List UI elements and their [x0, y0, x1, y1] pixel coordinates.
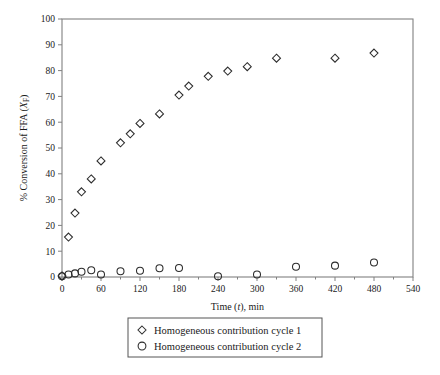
x-tick-label: 60	[96, 284, 106, 294]
x-tick-label: 0	[60, 284, 65, 294]
y-tick-label: 30	[46, 195, 56, 205]
x-tick-label: 540	[406, 284, 421, 294]
y-tick-label: 20	[46, 221, 56, 231]
x-tick-label: 300	[250, 284, 265, 294]
legend-label-1: Homogeneous contribution cycle 1	[154, 325, 301, 336]
scatter-plot: 0601201802403003604204805400102030405060…	[0, 0, 440, 375]
y-tick-label: 90	[46, 40, 56, 50]
x-tick-label: 240	[211, 284, 226, 294]
y-tick-label: 70	[46, 92, 56, 102]
x-tick-label: 480	[367, 284, 382, 294]
x-tick-label: 360	[289, 284, 304, 294]
x-tick-label: 420	[328, 284, 343, 294]
y-tick-label: 80	[46, 66, 56, 76]
x-axis-title: Time (t), min	[211, 301, 264, 313]
y-tick-label: 60	[46, 118, 56, 128]
x-tick-label: 180	[172, 284, 187, 294]
y-tick-label: 40	[46, 169, 56, 179]
y-axis-title: % Conversion of FFA (XF)	[18, 95, 31, 202]
chart-figure: 0601201802403003604204805400102030405060…	[0, 0, 440, 375]
y-tick-label: 50	[46, 143, 56, 153]
y-tick-label: 10	[46, 247, 56, 257]
y-tick-label: 0	[50, 272, 55, 282]
legend-label-2: Homogeneous contribution cycle 2	[154, 341, 301, 352]
plot-frame	[62, 19, 413, 277]
y-tick-label: 100	[41, 14, 56, 24]
x-tick-label: 120	[133, 284, 148, 294]
